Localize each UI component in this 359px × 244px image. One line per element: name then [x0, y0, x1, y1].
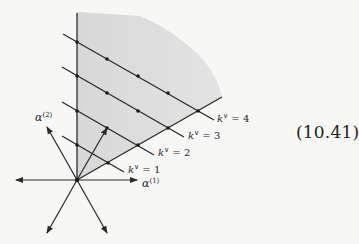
- dominant-chamber-shade: [77, 12, 222, 180]
- label-alpha1: α(1): [142, 177, 160, 190]
- equation-number: (10.41): [296, 122, 359, 142]
- label-k4: k∨ = 4: [217, 112, 249, 124]
- root-arrow-lower-left: [47, 180, 77, 233]
- root-arrow-upper-left: [47, 127, 77, 180]
- label-alpha2: α(2): [35, 111, 53, 124]
- root-arrow-lower-right: [77, 180, 107, 233]
- label-k1: k∨ = 1: [128, 163, 160, 175]
- label-k2: k∨ = 2: [158, 146, 190, 158]
- label-k3: k∨ = 3: [188, 129, 220, 141]
